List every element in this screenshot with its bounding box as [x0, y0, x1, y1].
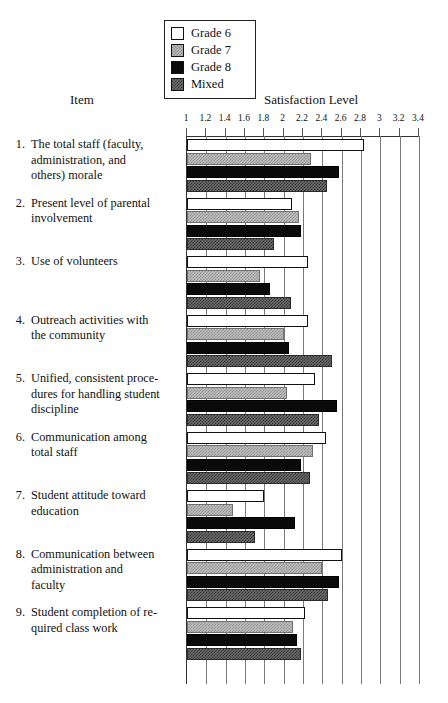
bar-grade-7	[187, 387, 287, 399]
legend-label: Grade 7	[191, 44, 231, 57]
category-label: 8.Communication betweenadministration an…	[14, 547, 182, 594]
category-text: Communication amongtotal staff	[31, 430, 182, 461]
category-label: 2.Present level of parentalinvolvement	[14, 196, 182, 227]
bar-mixed	[187, 297, 291, 309]
category-label: 3.Use of volunteers	[14, 254, 182, 270]
x-tick-label: 2.6	[335, 114, 347, 124]
legend-entry-grade-7: Grade 7	[171, 42, 249, 59]
legend-entry-mixed: Mixed	[171, 76, 249, 93]
category-number: 2.	[14, 196, 31, 227]
bar-grade-8	[187, 634, 297, 646]
bar-group	[187, 198, 419, 252]
light-hatch-square-icon	[171, 44, 184, 57]
bar-group	[187, 139, 419, 193]
legend-label: Grade 8	[191, 61, 231, 74]
category-text: Communication betweenadministration andf…	[31, 547, 182, 594]
x-tick-label: 1	[184, 114, 189, 124]
category-number: 1.	[14, 137, 31, 184]
bar-grade-6	[187, 373, 315, 385]
legend-label: Mixed	[191, 78, 224, 91]
chart-page: Grade 6 Grade 7 Grade 8 Mixed Item Satis…	[0, 0, 448, 703]
bar-grade-6	[187, 607, 305, 619]
bar-grade-8	[187, 576, 339, 588]
bar-grade-8	[187, 225, 301, 237]
category-text: Present level of parentalinvolvement	[31, 196, 182, 227]
bar-group	[187, 315, 419, 369]
category-text: Student attitude towardeducation	[31, 488, 182, 519]
category-text: Unified, consistent proce-dures for hand…	[31, 371, 182, 418]
bar-mixed	[187, 414, 319, 426]
bar-mixed	[187, 531, 255, 543]
legend: Grade 6 Grade 7 Grade 8 Mixed	[164, 20, 256, 99]
bar-grade-6	[187, 490, 264, 502]
bar-group	[187, 490, 419, 544]
category-text: Student completion of re-quired class wo…	[31, 605, 182, 636]
x-tick-label: 2.8	[354, 114, 366, 124]
bar-grade-7	[187, 153, 311, 165]
x-axis-tick-labels: 11.21.41.61.822.22.42.62.833.23.4	[0, 114, 448, 128]
bar-grade-6	[187, 549, 342, 561]
category-label: 9.Student completion of re-quired class …	[14, 605, 182, 636]
black-square-icon	[171, 61, 184, 74]
bar-grade-8	[187, 342, 289, 354]
legend-entry-grade-8: Grade 8	[171, 59, 249, 76]
axis-title: Satisfaction Level	[264, 92, 358, 108]
category-label: 6.Communication amongtotal staff	[14, 430, 182, 461]
category-number: 6.	[14, 430, 31, 461]
x-tick-label: 2.2	[296, 114, 308, 124]
category-number: 4.	[14, 313, 31, 344]
legend-label: Grade 6	[191, 27, 231, 40]
bar-grade-6	[187, 198, 292, 210]
bar-grade-7	[187, 270, 260, 282]
bar-grade-7	[187, 211, 299, 223]
legend-entry-grade-6: Grade 6	[171, 25, 249, 42]
category-label: 1.The total staff (faculty,administratio…	[14, 137, 182, 184]
bar-grade-8	[187, 400, 337, 412]
bar-grade-8	[187, 166, 339, 178]
bar-group	[187, 549, 419, 603]
x-tick-label: 2.4	[315, 114, 327, 124]
x-tick-label: 1.2	[199, 114, 211, 124]
bar-group	[187, 256, 419, 310]
bar-grade-6	[187, 139, 364, 151]
x-tick-label: 1.4	[219, 114, 231, 124]
bar-group	[187, 373, 419, 427]
bar-mixed	[187, 238, 274, 250]
bar-grade-6	[187, 432, 326, 444]
x-tick-label: 2	[280, 114, 285, 124]
bar-grade-6	[187, 315, 308, 327]
x-tick-label: 3.2	[393, 114, 405, 124]
bar-grade-8	[187, 517, 295, 529]
bar-mixed	[187, 355, 332, 367]
category-number: 9.	[14, 605, 31, 636]
x-tick-label: 1.6	[238, 114, 250, 124]
category-number: 7.	[14, 488, 31, 519]
bar-mixed	[187, 648, 301, 660]
dark-hatch-square-icon	[171, 78, 184, 91]
x-tick-label: 3.4	[412, 114, 424, 124]
category-text: Use of volunteers	[31, 254, 182, 270]
bar-mixed	[187, 589, 328, 601]
bar-grade-7	[187, 504, 233, 516]
bar-mixed	[187, 472, 310, 484]
bar-group	[187, 432, 419, 486]
category-label: 7.Student attitude towardeducation	[14, 488, 182, 519]
bar-grade-8	[187, 459, 301, 471]
category-text: Outreach activities withthe community	[31, 313, 182, 344]
category-label: 5.Unified, consistent proce-dures for ha…	[14, 371, 182, 418]
category-number: 3.	[14, 254, 31, 270]
bar-grade-7	[187, 562, 322, 574]
bar-group	[187, 607, 419, 661]
bar-grade-7	[187, 328, 284, 340]
x-tick-label: 3	[377, 114, 382, 124]
category-label: 4.Outreach activities withthe community	[14, 313, 182, 344]
x-tick-label: 1.8	[257, 114, 269, 124]
category-text: The total staff (faculty,administration,…	[31, 137, 182, 184]
bar-grade-6	[187, 256, 308, 268]
bar-grade-7	[187, 445, 313, 457]
bar-mixed	[187, 180, 327, 192]
bar-grade-8	[187, 283, 270, 295]
white-square-icon	[171, 27, 184, 40]
bar-grade-7	[187, 621, 293, 633]
category-number: 8.	[14, 547, 31, 594]
